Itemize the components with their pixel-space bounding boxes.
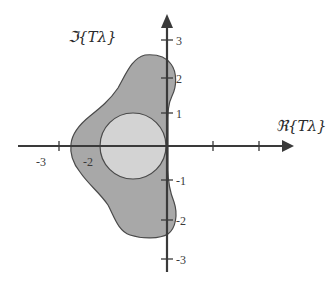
real-axis-arrow-icon [282, 140, 294, 152]
y-tick-label-neg1: -1 [176, 174, 186, 188]
imaginary-axis-arrow-icon [161, 14, 173, 28]
complex-plane-diagram: -3 -2 3 2 1 -1 -2 -3 ℑ{Tλ} ℜ{Tλ} [0, 0, 334, 287]
x-tick-label-neg2: -2 [83, 155, 93, 169]
y-tick-label-neg2: -2 [176, 214, 186, 228]
y-tick-label-2: 2 [176, 72, 182, 86]
y-tick-label-1: 1 [176, 107, 182, 121]
y-tick-label-3: 3 [176, 34, 182, 48]
y-tick-label-neg3: -3 [176, 253, 186, 267]
imaginary-axis-label: ℑ{Tλ} [68, 28, 117, 46]
real-axis-label: ℜ{Tλ} [276, 117, 327, 135]
x-tick-label-neg3: -3 [36, 155, 46, 169]
